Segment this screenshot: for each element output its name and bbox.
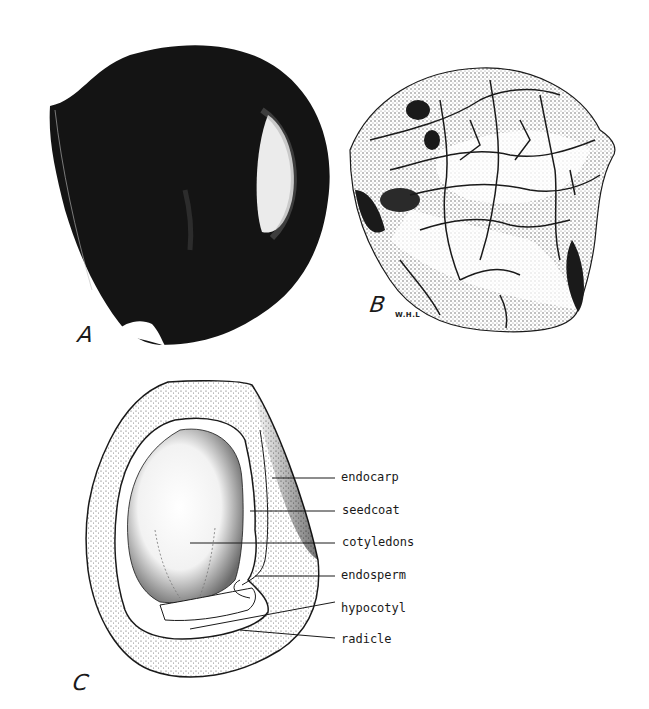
artist-initials: W.H.L	[395, 311, 420, 319]
label-cotyledons: cotyledons	[342, 535, 414, 549]
label-endocarp: endocarp	[341, 470, 399, 484]
label-radicle: radicle	[341, 632, 392, 646]
panel-c-section	[80, 380, 340, 700]
panel-a-fruit	[40, 40, 340, 360]
label-hypocotyl: hypocotyl	[341, 601, 406, 615]
label-endosperm: endosperm	[341, 568, 406, 582]
label-seedcoat: seedcoat	[342, 503, 400, 517]
